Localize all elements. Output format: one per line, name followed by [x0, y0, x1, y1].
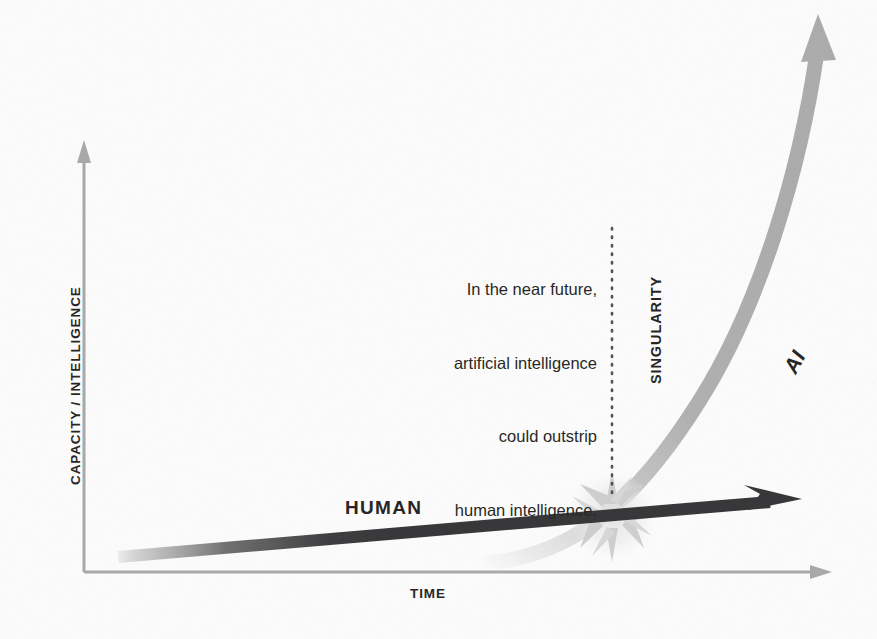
annotation-line-4: human intelligence. — [355, 498, 597, 523]
singularity-chart-figure: CAPACITY / INTELLIGENCE TIME SINGULARITY… — [0, 0, 877, 639]
y-axis-label: CAPACITY / INTELLIGENCE — [68, 286, 83, 485]
annotation-line-1: In the near future, — [355, 277, 597, 302]
annotation-line-3: could outstrip — [355, 424, 597, 449]
annotation-callout: In the near future, artificial intellige… — [355, 228, 597, 571]
x-axis-label: TIME — [410, 586, 446, 601]
singularity-label: SINGULARITY — [648, 276, 664, 384]
annotation-line-2: artificial intelligence — [355, 351, 597, 376]
